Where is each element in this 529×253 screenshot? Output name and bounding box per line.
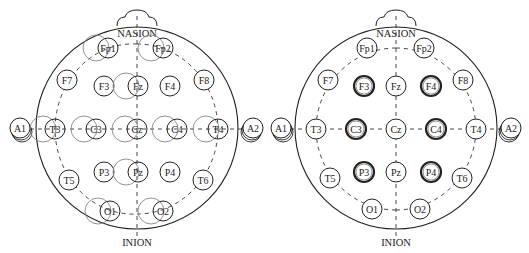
electrode-f7: F7	[57, 70, 77, 90]
electrode-p4: P4	[160, 162, 180, 182]
electrode-t6: T6	[193, 170, 213, 190]
electrode-f3: F3	[354, 76, 374, 96]
electrode-a1: A1	[271, 118, 293, 142]
electrode-label: F8	[458, 75, 469, 86]
inion-label: INION	[381, 237, 411, 248]
electrode-fp1: Fp1	[357, 38, 377, 58]
electrode-label: Fp2	[155, 43, 171, 54]
electrode-f4: F4	[160, 76, 180, 96]
electrode-label: F3	[359, 81, 370, 92]
electrode-f7: F7	[318, 70, 338, 90]
electrode-label: C3	[350, 124, 362, 135]
electrode-label: O2	[157, 206, 169, 217]
electrode-label: F7	[62, 75, 73, 86]
electrode-label: F7	[323, 75, 334, 86]
electrode-label: Cz	[390, 124, 402, 135]
electrode-o2: O2	[138, 198, 173, 224]
electrode-label: A1	[275, 123, 287, 134]
electrode-label: F4	[165, 81, 176, 92]
electrode-label: C4	[171, 124, 183, 135]
electrode-label: Fz	[133, 81, 144, 92]
electrode-fp2: Fp2	[414, 38, 434, 58]
electrode-label: C4	[430, 124, 442, 135]
electrode-label: F3	[99, 81, 110, 92]
electrode-t6: T6	[452, 168, 472, 188]
electrode-cz: Cz	[386, 119, 406, 139]
electrode-label: O2	[414, 204, 426, 215]
electrode-label: T6	[456, 173, 467, 184]
electrode-label: T4	[212, 124, 223, 135]
electrode-label: T3	[310, 124, 321, 135]
electrode-label: F4	[426, 81, 437, 92]
electrode-label: Fp1	[359, 43, 375, 54]
electrode-a1: A1	[10, 118, 32, 142]
electrode-label: P4	[165, 167, 176, 178]
inion-label: INION	[122, 237, 152, 248]
nasion-label: NASION	[117, 28, 157, 39]
electrode-label: O1	[104, 206, 116, 217]
electrode-t5: T5	[320, 168, 340, 188]
electrode-p3: P3	[94, 162, 114, 182]
electrodes-left: Fp1Fp2F7F3FzF4F8A1T3C3CzC4T4A2T5P3PzP4T6…	[10, 35, 263, 224]
eeg-10-20-diagram: NASION INION Fp1Fp2F7F3FzF4F8A1T3C3CzC4T…	[0, 0, 529, 253]
electrode-fp1: Fp1	[83, 35, 118, 61]
electrode-label: P4	[426, 167, 437, 178]
electrode-label: A1	[14, 123, 26, 134]
electrode-a2: A2	[499, 118, 521, 142]
electrode-t5: T5	[59, 170, 79, 190]
electrode-label: C3	[90, 124, 102, 135]
electrode-p4: P4	[421, 162, 441, 182]
electrode-f8: F8	[453, 70, 473, 90]
electrode-c3: C3	[346, 119, 366, 139]
electrode-label: T4	[470, 124, 481, 135]
electrode-pz: Pz	[386, 162, 406, 182]
electrode-label: Fp1	[100, 43, 116, 54]
electrode-label: O1	[366, 204, 378, 215]
electrode-label: A2	[505, 123, 517, 134]
electrode-label: Cz	[131, 124, 143, 135]
electrode-label: P3	[359, 167, 370, 178]
electrode-label: A2	[247, 123, 259, 134]
electrode-f4: F4	[421, 76, 441, 96]
electrode-label: T3	[49, 124, 60, 135]
electrode-label: T6	[197, 175, 208, 186]
electrode-o1: O1	[85, 198, 120, 224]
electrode-o1: O1	[362, 199, 382, 219]
electrode-label: Pz	[391, 167, 402, 178]
electrode-a2: A2	[241, 118, 263, 142]
nasion-label: NASION	[376, 28, 416, 39]
electrode-t4: T4	[466, 119, 486, 139]
electrode-fz: Fz	[386, 76, 406, 96]
electrode-f3: F3	[94, 76, 114, 96]
electrode-label: Fp2	[416, 43, 432, 54]
electrode-o2: O2	[410, 199, 430, 219]
electrode-c4: C4	[426, 119, 446, 139]
electrode-pz: Pz	[113, 159, 148, 185]
electrode-f8: F8	[194, 70, 214, 90]
electrode-p3: P3	[354, 162, 374, 182]
electrode-label: Pz	[133, 167, 144, 178]
head-left: NASION INION Fp1Fp2F7F3FzF4F8A1T3C3CzC4T…	[10, 10, 263, 248]
electrode-label: Fz	[391, 81, 402, 92]
electrode-label: P3	[99, 167, 110, 178]
electrode-label: T5	[324, 173, 335, 184]
head-right: NASION INION Fp1Fp2F7F3FzF4F8A1T3C3CzC4T…	[271, 10, 521, 248]
electrode-label: T5	[63, 175, 74, 186]
electrode-t3: T3	[306, 119, 326, 139]
electrode-label: F8	[199, 75, 210, 86]
electrode-fz: Fz	[113, 73, 148, 99]
